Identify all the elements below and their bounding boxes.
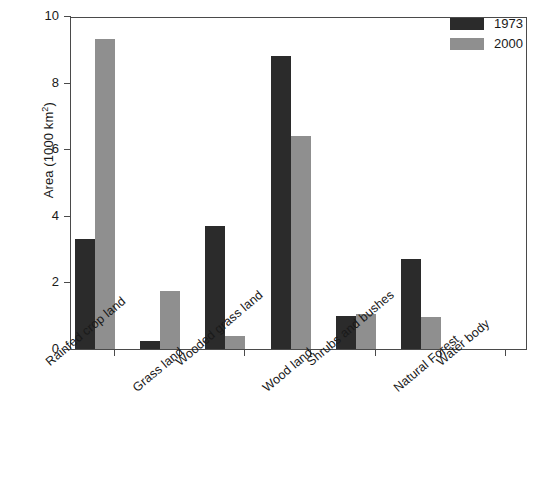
bar-1973-natural-forest	[401, 259, 421, 349]
y-tick-mark	[64, 149, 71, 150]
x-category-label-wood-land: Wood land	[260, 345, 315, 395]
y-tick-label: 6	[52, 140, 59, 158]
legend-label-2000: 2000	[494, 37, 523, 51]
x-tick-mark	[505, 349, 506, 356]
legend-swatch-icon-2000	[450, 38, 484, 50]
bar-2000-wooded-grass-land	[225, 336, 245, 349]
legend-label-1973: 1973	[494, 17, 523, 31]
bar-1973-wood-land	[271, 56, 291, 349]
x-category-label-grass-land: Grass land	[130, 344, 186, 394]
legend-item-2000: 2000	[450, 34, 523, 54]
plot-area: 0246810	[70, 17, 527, 350]
legend: 1973 2000	[450, 14, 523, 54]
bar-2000-wood-land	[291, 136, 311, 349]
y-tick-label: 10	[45, 7, 59, 25]
y-axis-title-tail: )	[41, 102, 56, 106]
x-tick-mark	[244, 349, 245, 356]
bar-chart-figure: Area (1000 km2) 0246810 1973 2000 Rainfe…	[0, 0, 545, 479]
x-tick-mark	[114, 349, 115, 356]
y-tick-label: 4	[52, 207, 59, 225]
y-tick-label: 8	[52, 74, 59, 92]
y-tick-mark	[64, 282, 71, 283]
bar-1973-grass-land	[140, 341, 160, 349]
y-axis-title-superscript: 2	[40, 107, 50, 112]
y-tick-mark	[64, 83, 71, 84]
y-tick-label: 2	[52, 273, 59, 291]
legend-item-1973: 1973	[450, 14, 523, 34]
legend-swatch-icon-1973	[450, 18, 484, 30]
y-tick-mark	[64, 16, 71, 17]
y-tick-mark	[64, 216, 71, 217]
bar-2000-grass-land	[160, 291, 180, 349]
x-tick-mark	[375, 349, 376, 356]
